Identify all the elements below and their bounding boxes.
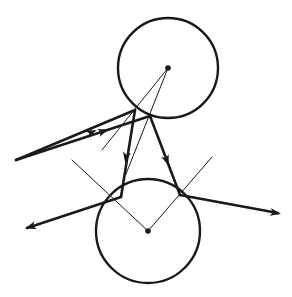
ray-reflection-diagram [0, 0, 292, 297]
top-center-dot [165, 65, 171, 71]
bottom-center-dot [145, 228, 151, 234]
